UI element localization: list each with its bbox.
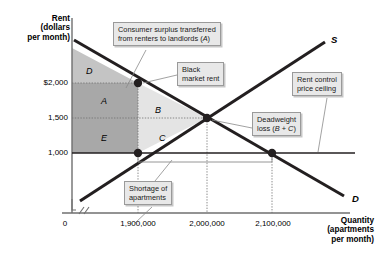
quantity-supplied-at-ceiling-point bbox=[134, 149, 142, 157]
callout-deadweight-line2-close: ) bbox=[293, 124, 295, 133]
shortage-bracket bbox=[138, 157, 272, 162]
supply-curve-label: S bbox=[331, 34, 338, 45]
callout-deadweight-line1: Deadweight bbox=[257, 115, 296, 124]
region-D-shape bbox=[72, 48, 138, 83]
callout-shortage-line2: apartments bbox=[129, 193, 167, 202]
callout-deadweight-line2-text: loss ( bbox=[257, 124, 275, 133]
chart-figure: S D D A E B C Rent (dollars per month) bbox=[0, 0, 377, 268]
callout-rent-control-price-ceiling: Rent control price ceiling bbox=[292, 72, 342, 96]
callout-consumer-surplus: Consumer surplus transferred from renter… bbox=[113, 22, 221, 46]
y-axis-title: Rent (dollars per month) bbox=[4, 14, 70, 42]
x-tick-label-0: 0 bbox=[55, 219, 75, 228]
quantity-demanded-at-ceiling-point bbox=[268, 149, 276, 157]
y-axis-title-line2: (dollars bbox=[4, 23, 70, 32]
y-tick-label-2000: $2,000 bbox=[16, 78, 68, 87]
callout-deadweight-loss: Deadweight loss (B + C) bbox=[252, 112, 301, 136]
y-axis-title-line3: per month) bbox=[4, 33, 70, 42]
region-label-A: A bbox=[100, 96, 107, 106]
x-tick-label-1900000: 1,900,000 bbox=[104, 219, 172, 228]
black-market-rent-point bbox=[134, 79, 142, 87]
callout-rent-control-line1: Rent control bbox=[297, 75, 337, 84]
region-label-D: D bbox=[86, 66, 93, 76]
callout-shortage-of-apartments: Shortage of apartments bbox=[124, 181, 172, 205]
callout-rent-control-line2: price ceiling bbox=[297, 84, 337, 93]
callout-shortage-line1: Shortage of bbox=[129, 184, 167, 193]
callout-consumer-surplus-line1: Consumer surplus transferred bbox=[118, 25, 216, 34]
callout-black-market-rent: Black market rent bbox=[177, 62, 224, 86]
equilibrium-point bbox=[203, 114, 211, 122]
y-axis-title-line1: Rent bbox=[4, 14, 70, 23]
callout-consumer-surplus-line2-text: from renters to landlords ( bbox=[118, 34, 203, 43]
region-label-C: C bbox=[159, 133, 166, 143]
x-axis-title-line3: per month) bbox=[288, 235, 374, 244]
callout-consumer-surplus-line2: from renters to landlords (A) bbox=[118, 34, 216, 43]
x-tick-label-2000000: 2,000,000 bbox=[173, 219, 241, 228]
region-B-shape bbox=[138, 83, 207, 118]
demand-curve-label: D bbox=[352, 193, 359, 204]
region-C-shape bbox=[138, 118, 207, 153]
y-tick-label-1000: 1,000 bbox=[16, 148, 68, 157]
callout-deadweight-line2: loss (B + C) bbox=[257, 124, 296, 133]
callout-deadweight-plus: + bbox=[280, 124, 288, 133]
callout-consumer-surplus-line2-close: ) bbox=[208, 34, 210, 43]
y-tick-label-1500: 1,500 bbox=[16, 113, 68, 122]
region-label-E: E bbox=[101, 133, 108, 143]
callout-black-market-line2: market rent bbox=[182, 74, 219, 83]
x-tick-label-2100000: 2,100,000 bbox=[239, 219, 307, 228]
callout-black-market-line1: Black bbox=[182, 65, 219, 74]
region-label-B: B bbox=[155, 105, 161, 115]
